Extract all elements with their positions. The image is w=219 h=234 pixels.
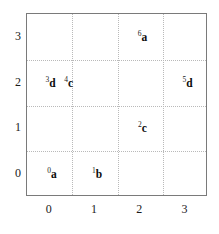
point-letter: a bbox=[51, 168, 57, 180]
point-letter: a bbox=[141, 31, 147, 43]
data-point-label[interactable]: 6a bbox=[138, 30, 148, 43]
data-point-label[interactable]: 0a bbox=[47, 168, 57, 181]
y-tick-label: 3 bbox=[9, 30, 21, 42]
gridline-vertical bbox=[118, 14, 119, 195]
y-tick-label: 2 bbox=[9, 76, 21, 88]
data-point-label[interactable]: 3d bbox=[45, 76, 55, 89]
gridline-horizontal bbox=[27, 60, 206, 61]
data-point-label[interactable]: 1b bbox=[92, 168, 102, 181]
x-tick-label: 2 bbox=[136, 203, 142, 215]
x-tick-label: 1 bbox=[91, 203, 97, 215]
gridline-vertical bbox=[163, 14, 164, 195]
point-letter: d bbox=[186, 77, 192, 89]
x-tick-label: 3 bbox=[181, 203, 187, 215]
gridline-horizontal bbox=[27, 106, 206, 107]
point-letter: c bbox=[68, 77, 73, 89]
gridline-vertical bbox=[72, 14, 73, 195]
data-point-label[interactable]: 2c bbox=[138, 122, 147, 135]
x-tick-label: 0 bbox=[46, 203, 52, 215]
data-point-label[interactable]: 4c bbox=[64, 76, 73, 89]
data-point-label[interactable]: 5d bbox=[183, 76, 193, 89]
gridline-horizontal bbox=[27, 151, 206, 152]
scatter-plot-figure: 0a1b2c3d4c5d6a 0123 0123 bbox=[0, 0, 219, 234]
point-letter: c bbox=[142, 122, 147, 134]
y-tick-label: 0 bbox=[9, 167, 21, 179]
point-letter: b bbox=[96, 168, 102, 180]
point-letter: d bbox=[49, 77, 55, 89]
plot-area: 0a1b2c3d4c5d6a bbox=[26, 13, 207, 196]
y-tick-label: 1 bbox=[9, 121, 21, 133]
